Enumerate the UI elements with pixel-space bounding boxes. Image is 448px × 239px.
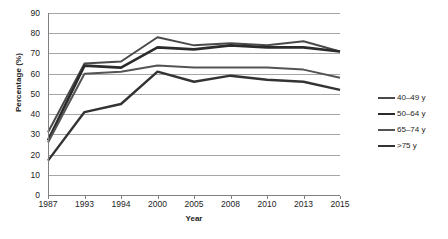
y-tick-label: 90 — [14, 9, 40, 18]
line-chart: Percentage (%) 9080706050403020100 19871… — [0, 0, 448, 239]
y-axis-tick-labels: 9080706050403020100 — [14, 13, 40, 195]
y-tick-label: 60 — [14, 69, 40, 78]
x-tick-label: 2000 — [138, 199, 178, 209]
legend-item-3[interactable]: >75 y — [378, 138, 448, 154]
axis-lines — [48, 13, 340, 196]
y-tick-label: 30 — [14, 130, 40, 139]
x-axis-tick-labels: 198719931994200020052008201020132015 — [48, 199, 340, 213]
plot-area — [48, 13, 340, 195]
series-line-2 — [48, 66, 340, 143]
legend-item-2[interactable]: 65–74 y — [378, 122, 448, 138]
series-line-0 — [48, 37, 340, 132]
legend-label: 65–74 y — [397, 126, 425, 134]
legend-label: 50–64 y — [397, 110, 425, 118]
y-tick-label: 80 — [14, 29, 40, 38]
y-tick-label: 10 — [14, 171, 40, 180]
x-tick-label: 2005 — [174, 199, 214, 209]
chart-legend: 40–49 y50–64 y65–74 y>75 y — [378, 90, 448, 154]
y-tick-label: 50 — [14, 90, 40, 99]
legend-swatch-icon — [378, 113, 395, 116]
gridlines — [48, 14, 340, 196]
x-tick-label: 1993 — [65, 199, 105, 209]
x-tick-label: 2013 — [284, 199, 324, 209]
x-tick-label: 2008 — [211, 199, 251, 209]
series-line-3 — [48, 72, 340, 161]
legend-label: >75 y — [397, 142, 417, 150]
series-lines — [48, 37, 340, 160]
legend-swatch-icon — [378, 97, 395, 99]
legend-item-1[interactable]: 50–64 y — [378, 106, 448, 122]
legend-swatch-icon — [378, 129, 395, 131]
plot-svg — [48, 13, 340, 195]
series-line-1 — [48, 45, 340, 140]
y-tick-label: 20 — [14, 150, 40, 159]
y-tick-label: 0 — [14, 191, 40, 200]
x-tick-label: 1994 — [101, 199, 141, 209]
x-axis-title: Year — [48, 214, 340, 223]
y-tick-label: 70 — [14, 49, 40, 58]
legend-label: 40–49 y — [397, 94, 425, 102]
legend-item-0[interactable]: 40–49 y — [378, 90, 448, 106]
legend-swatch-icon — [378, 145, 395, 147]
x-tick-label: 1987 — [28, 199, 68, 209]
y-tick-label: 40 — [14, 110, 40, 119]
x-tick-label: 2015 — [320, 199, 360, 209]
x-tick-label: 2010 — [247, 199, 287, 209]
